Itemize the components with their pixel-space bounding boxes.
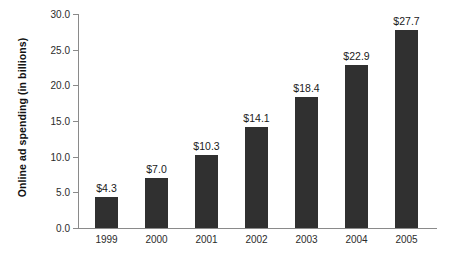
bar — [395, 30, 418, 228]
bar — [295, 97, 318, 228]
x-axis-tick-label: 2000 — [134, 234, 180, 245]
bar — [245, 127, 268, 228]
bar — [195, 155, 218, 228]
y-axis-tick — [73, 228, 78, 229]
y-axis-tick — [73, 192, 78, 193]
bar-value-label: $10.3 — [184, 140, 230, 152]
bar-value-label: $14.1 — [234, 112, 280, 124]
y-axis-tick — [73, 14, 78, 15]
bar-value-label: $22.9 — [334, 50, 380, 62]
y-axis-tick — [73, 121, 78, 122]
x-axis-tick-label: 2001 — [184, 234, 230, 245]
bar — [95, 197, 118, 228]
y-axis-tick — [73, 85, 78, 86]
bar — [145, 178, 168, 228]
bar-value-label: $7.0 — [134, 163, 180, 175]
bar-chart: Online ad spending (in billions) 0.05.01… — [0, 0, 459, 261]
x-axis-tick-label: 2003 — [284, 234, 330, 245]
y-axis-tick-label: 5.0 — [28, 187, 70, 198]
y-axis-tick — [73, 50, 78, 51]
x-axis-tick-label: 2002 — [234, 234, 280, 245]
y-axis-tick-label: 20.0 — [28, 80, 70, 91]
bar — [345, 65, 368, 228]
x-axis-tick-label: 1999 — [84, 234, 130, 245]
x-axis-line — [78, 228, 437, 229]
bar-value-label: $4.3 — [84, 182, 130, 194]
y-axis-tick-label: 30.0 — [28, 9, 70, 20]
bar-value-label: $27.7 — [384, 15, 430, 27]
x-axis-tick-label: 2004 — [334, 234, 380, 245]
y-axis-tick — [73, 157, 78, 158]
y-axis-line — [78, 14, 79, 229]
y-axis-tick-label: 0.0 — [28, 223, 70, 234]
y-axis-tick-label: 15.0 — [28, 116, 70, 127]
bar-value-label: $18.4 — [284, 82, 330, 94]
y-axis-tick-label: 10.0 — [28, 151, 70, 162]
x-axis-tick-label: 2005 — [384, 234, 430, 245]
y-axis-tick-label: 25.0 — [28, 44, 70, 55]
